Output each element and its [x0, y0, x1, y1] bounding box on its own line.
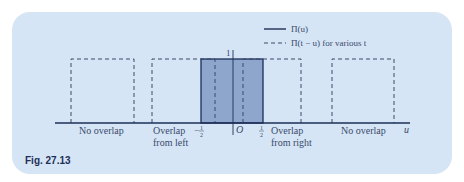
legend-dashed-label: Π(t − u) for various t [291, 38, 367, 48]
label-neg-half-num: 1 [200, 125, 203, 131]
region-overlap-right-1: Overlap [271, 125, 303, 136]
label-half-den: 2 [260, 132, 263, 138]
figure-caption: Fig. 27.13 [25, 155, 71, 166]
region-overlap-left-1: Overlap [153, 125, 185, 136]
region-overlap-right-2: from right [271, 137, 312, 148]
label-height-one: 1 [226, 48, 231, 58]
label-neg-half-sign: − [194, 125, 199, 135]
legend-solid-label: Π(u) [291, 24, 308, 34]
region-no-overlap-left: No overlap [79, 125, 124, 136]
region-overlap-left-2: from left [153, 137, 188, 148]
legend: Π(u) Π(t − u) for various t [264, 24, 367, 48]
label-neg-half-den: 2 [200, 132, 203, 138]
rect-pi-u [201, 59, 263, 123]
label-half-num: 1 [260, 125, 263, 131]
region-no-overlap-right: No overlap [341, 125, 386, 136]
label-origin: O [236, 124, 243, 135]
label-axis-u: u [404, 124, 409, 135]
